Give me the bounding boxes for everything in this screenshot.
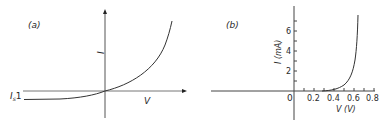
- panel-b-x-tick-label: 0.8: [366, 94, 379, 103]
- panel-a-y-arrow-icon: [103, 9, 107, 14]
- panel-a-is-label: Is1: [10, 91, 22, 102]
- panel-b-origin-label: 0: [287, 93, 293, 103]
- panel-b: (b) 0 0.2 0.4 0.6 0.8 2 4 6 I (mA) V (V): [211, 6, 379, 120]
- panel-b-y-tick-label: 4: [286, 47, 291, 56]
- panel-b-x-tick-label: 0.2: [307, 94, 320, 103]
- panel-b-y-label: I (mA): [274, 40, 283, 64]
- panel-b-title: (b): [226, 20, 239, 30]
- panel-b-x-label: V (V): [336, 105, 356, 114]
- panel-b-x-tick-label: 0.4: [327, 94, 340, 103]
- panel-b-iv-curve: [322, 15, 358, 91]
- panel-b-x-tick-label: 0.6: [347, 94, 360, 103]
- panel-a: (a) I V Is1: [10, 9, 187, 118]
- panel-b-y-tick-label: 2: [286, 67, 291, 76]
- panel-a-y-label: I: [96, 51, 106, 54]
- panel-a-iv-curve: [24, 21, 172, 100]
- panel-a-x-label: V: [144, 96, 151, 106]
- panel-a-title: (a): [28, 20, 41, 30]
- panel-a-x-arrow-icon: [182, 89, 187, 93]
- diagram-canvas: (a) I V Is1: [0, 0, 387, 123]
- panel-b-y-tick-label: 6: [286, 27, 291, 36]
